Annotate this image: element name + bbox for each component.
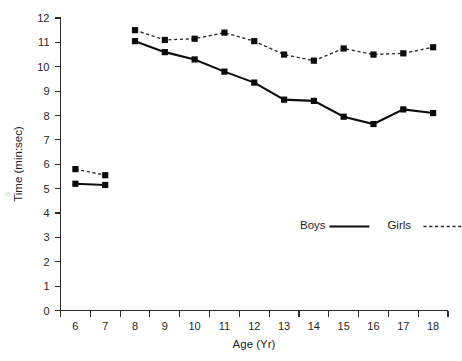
x-tick-label: 11 [219, 320, 230, 332]
y-tick-label: 2 [43, 256, 49, 268]
chart-legend: BoysGirls [300, 219, 462, 231]
y-tick-label: 9 [43, 85, 49, 97]
data-point-marker [162, 37, 168, 43]
data-point-marker [132, 27, 138, 33]
series-boys [72, 38, 436, 188]
y-tick-label: 3 [43, 231, 49, 243]
axes-group [61, 18, 449, 311]
data-point-marker [72, 166, 78, 172]
data-point-marker [370, 121, 376, 127]
edge-artifact-text: s [2, 192, 12, 197]
x-tick-label: 15 [338, 320, 350, 332]
x-tick-label: 18 [427, 320, 439, 332]
legend-label-boys: Boys [300, 219, 326, 231]
y-tick-label: 1 [43, 280, 49, 292]
data-point-marker [72, 181, 78, 187]
series-line [75, 169, 105, 175]
data-point-marker [430, 44, 436, 50]
data-point-marker [221, 69, 227, 75]
data-point-marker [192, 36, 198, 42]
legend-label-girls: Girls [387, 219, 411, 231]
data-point-marker [370, 51, 376, 57]
data-point-marker [132, 38, 138, 44]
y-tick-label: 12 [37, 12, 49, 24]
data-point-marker [102, 182, 108, 188]
series-line [75, 184, 105, 185]
data-point-marker [102, 172, 108, 178]
series-girls [72, 27, 436, 178]
data-point-marker [251, 79, 257, 85]
x-tick-label: 9 [162, 320, 168, 332]
x-tick-label: 8 [132, 320, 138, 332]
x-tick-label: 6 [72, 320, 78, 332]
x-axis-title: Age (Yr) [233, 338, 276, 350]
x-tick-label: 12 [248, 320, 260, 332]
data-point-marker [400, 50, 406, 56]
x-axis-ticks: 6789101112131415161718 [61, 311, 449, 332]
x-tick-label: 13 [278, 320, 290, 332]
series-layer [72, 27, 436, 188]
y-tick-label: 4 [43, 207, 49, 219]
line-chart: 0123456789101112 6789101112131415161718 … [0, 0, 462, 361]
data-point-marker [281, 97, 287, 103]
y-axis-title: Time (min:sec) [12, 126, 24, 202]
data-point-marker [162, 49, 168, 55]
data-point-marker [221, 30, 227, 36]
x-tick-label: 10 [189, 320, 201, 332]
y-tick-label: 10 [37, 61, 49, 73]
x-tick-label: 14 [308, 320, 320, 332]
y-tick-label: 7 [43, 134, 49, 146]
data-point-marker [311, 98, 317, 104]
data-point-marker [400, 106, 406, 112]
y-tick-label: 5 [43, 183, 49, 195]
y-tick-label: 11 [38, 36, 49, 48]
data-point-marker [311, 58, 317, 64]
x-tick-label: 16 [367, 320, 379, 332]
data-point-marker [192, 56, 198, 62]
y-axis-ticks: 0123456789101112 [37, 12, 60, 317]
chart-container: 0123456789101112 6789101112131415161718 … [0, 0, 462, 361]
y-tick-label: 6 [43, 158, 49, 170]
y-tick-label: 8 [43, 110, 49, 122]
data-point-marker [341, 45, 347, 51]
x-tick-label: 7 [102, 320, 108, 332]
data-point-marker [251, 38, 257, 44]
data-point-marker [281, 51, 287, 57]
x-tick-label: 17 [397, 320, 409, 332]
data-point-marker [341, 114, 347, 120]
data-point-marker [430, 110, 436, 116]
y-tick-label: 0 [43, 305, 49, 317]
